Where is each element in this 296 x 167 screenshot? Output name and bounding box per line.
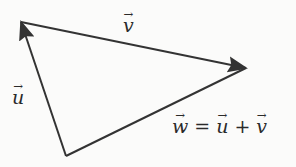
equation-term-v: v [256,117,267,136]
label-u: u [12,88,24,107]
equation-plus-sign: + [234,115,250,137]
vector-v-symbol: v [123,16,134,35]
equation-term-u: u [216,117,228,136]
label-v: v [123,16,134,35]
equation-lhs-w: w [172,117,188,136]
equation-w-equals-u-plus-v: w=u+v [172,117,267,136]
equation-equals-sign: = [194,115,210,137]
vector-u-symbol: u [12,88,24,107]
vector-triangle-svg [0,0,296,167]
vector-u-line [21,22,66,156]
vector-diagram: v u w=u+v [0,0,296,167]
